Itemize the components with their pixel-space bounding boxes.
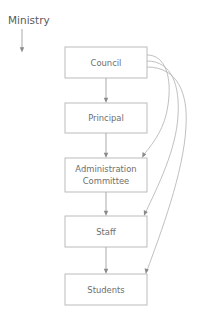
node-students-label: Students	[87, 285, 124, 295]
node-administration-committee-label-line2: Committee	[83, 176, 130, 186]
node-administration-committee-label-line1: Administration	[75, 164, 136, 174]
connector-council-to-principal	[104, 78, 108, 103]
connector-administration-to-staff	[104, 192, 108, 216]
node-principal-label: Principal	[88, 113, 124, 123]
ministry-arrow	[20, 29, 24, 53]
node-council-label: Council	[91, 58, 122, 68]
node-students[interactable]: Students	[65, 274, 147, 305]
node-administration-committee[interactable]: Administration Committee	[65, 158, 147, 192]
ministry-label: Ministry	[8, 14, 50, 26]
organization-diagram: Ministry	[0, 0, 202, 317]
node-council[interactable]: Council	[65, 47, 147, 78]
node-staff-label: Staff	[96, 227, 116, 237]
diagram-canvas: Ministry	[0, 0, 202, 317]
node-principal[interactable]: Principal	[65, 103, 147, 133]
connector-principal-to-administration	[104, 133, 108, 158]
connector-staff-to-students	[104, 247, 108, 274]
node-staff[interactable]: Staff	[65, 216, 147, 247]
curve-council-to-students	[145, 67, 187, 274]
